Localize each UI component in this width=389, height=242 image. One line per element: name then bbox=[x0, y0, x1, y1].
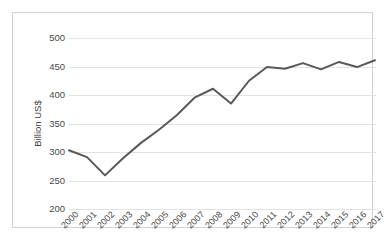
y-tick-label-400: 400 bbox=[31, 90, 65, 100]
x-tick-label-2009: 2009 bbox=[222, 210, 243, 231]
x-tick-label-2013: 2013 bbox=[294, 210, 315, 231]
x-axis-tick-labels: 2000200120022003200420052006200720082009… bbox=[69, 210, 376, 242]
y-tick-label-250: 250 bbox=[31, 176, 65, 186]
x-tick-label-2005: 2005 bbox=[150, 210, 171, 231]
plot-area bbox=[69, 38, 376, 209]
chart-frame: Billion US$ 200250300350400450500 200020… bbox=[12, 12, 373, 228]
x-tick-label-2010: 2010 bbox=[240, 210, 261, 231]
x-tick-label-2015: 2015 bbox=[330, 210, 351, 231]
series-line-chart bbox=[69, 38, 376, 209]
y-tick-label-300: 300 bbox=[31, 147, 65, 157]
line-chart-figure: Billion US$ 200250300350400450500 200020… bbox=[0, 0, 389, 242]
y-tick-label-450: 450 bbox=[31, 62, 65, 72]
x-tick-label-2008: 2008 bbox=[204, 210, 225, 231]
x-tick-label-2011: 2011 bbox=[258, 210, 278, 230]
x-tick-label-2002: 2002 bbox=[96, 210, 117, 231]
x-tick-label-2007: 2007 bbox=[186, 210, 207, 231]
x-tick-label-2003: 2003 bbox=[114, 210, 135, 231]
series-line-billion-usd bbox=[69, 60, 375, 175]
y-tick-label-200: 200 bbox=[31, 204, 65, 214]
y-axis-tick-labels: 200250300350400450500 bbox=[27, 38, 65, 209]
y-tick-label-500: 500 bbox=[31, 33, 65, 43]
x-tick-label-2016: 2016 bbox=[348, 210, 369, 231]
x-tick-label-2017: 2017 bbox=[366, 210, 387, 231]
x-tick-label-2004: 2004 bbox=[132, 210, 153, 231]
x-tick-label-2012: 2012 bbox=[276, 210, 297, 231]
y-tick-label-350: 350 bbox=[31, 119, 65, 129]
x-tick-label-2014: 2014 bbox=[312, 210, 333, 231]
x-tick-label-2001: 2001 bbox=[78, 210, 99, 231]
x-tick-label-2006: 2006 bbox=[168, 210, 189, 231]
